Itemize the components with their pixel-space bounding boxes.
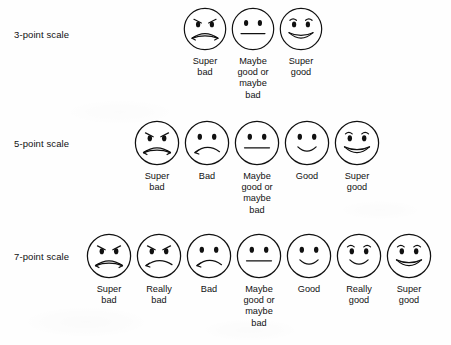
scale-point-neutral[interactable]: Maybe good or maybe bad xyxy=(234,232,284,329)
faces-strip: Super badMaybe good or maybe badSuper go… xyxy=(181,6,325,101)
face-really-good-icon xyxy=(335,232,383,280)
scale-point-caption: Super good xyxy=(345,171,370,193)
scale-point-neutral[interactable]: Maybe good or maybe bad xyxy=(232,119,282,216)
scale-point-caption: Maybe good or maybe bad xyxy=(243,284,274,329)
scale-point-super-good[interactable]: Super good xyxy=(384,232,434,329)
face-good-icon xyxy=(285,232,333,280)
face-bad-icon xyxy=(185,232,233,280)
face-neutral-icon xyxy=(233,119,281,167)
scale-point-bad[interactable]: Bad xyxy=(182,119,232,216)
scale-row-label: 3-point scale xyxy=(14,29,69,40)
scale-point-super-good[interactable]: Super good xyxy=(332,119,382,216)
face-super-good-icon xyxy=(333,119,381,167)
face-bad-icon xyxy=(183,119,231,167)
scale-point-super-bad[interactable]: Super bad xyxy=(132,119,182,216)
face-super-bad-icon xyxy=(133,119,181,167)
scale-point-caption: Good xyxy=(296,171,318,182)
scale-row-label: 5-point scale xyxy=(14,138,69,149)
face-really-bad-icon xyxy=(135,232,183,280)
face-good-icon xyxy=(283,119,331,167)
scale-point-caption: Good xyxy=(298,284,320,295)
scale-point-good[interactable]: Good xyxy=(282,119,332,216)
scale-point-caption: Super bad xyxy=(193,56,218,78)
face-super-good-icon xyxy=(385,232,433,280)
faces-strip: Super badBadMaybe good or maybe badGoodS… xyxy=(132,119,382,216)
scale-point-really-bad[interactable]: Really bad xyxy=(134,232,184,329)
face-neutral-icon xyxy=(230,6,276,52)
face-neutral-icon xyxy=(235,232,283,280)
scale-point-caption: Super bad xyxy=(97,284,122,306)
scale-point-super-good[interactable]: Super good xyxy=(277,6,325,101)
face-super-bad-icon xyxy=(182,6,228,52)
scale-point-caption: Really good xyxy=(346,284,372,306)
scale-point-caption: Maybe good or maybe bad xyxy=(241,171,272,216)
scale-point-super-bad[interactable]: Super bad xyxy=(84,232,134,329)
scale-point-bad[interactable]: Bad xyxy=(184,232,234,329)
scale-point-caption: Maybe good or maybe bad xyxy=(237,56,268,101)
scale-point-caption: Super bad xyxy=(145,171,170,193)
scale-point-caption: Bad xyxy=(201,284,217,295)
scale-point-good[interactable]: Good xyxy=(284,232,334,329)
scale-point-caption: Bad xyxy=(199,171,215,182)
figure-canvas: 3-point scaleSuper badMaybe good or mayb… xyxy=(0,0,451,345)
scale-point-caption: Super good xyxy=(397,284,422,306)
scale-point-caption: Super good xyxy=(289,56,314,78)
face-super-good-icon xyxy=(278,6,324,52)
face-super-bad-icon xyxy=(85,232,133,280)
scale-point-neutral[interactable]: Maybe good or maybe bad xyxy=(229,6,277,101)
faces-strip: Super badReally badBadMaybe good or mayb… xyxy=(84,232,434,329)
scale-row-label: 7-point scale xyxy=(14,251,69,262)
scale-point-super-bad[interactable]: Super bad xyxy=(181,6,229,101)
scale-point-caption: Really bad xyxy=(146,284,172,306)
scale-point-really-good[interactable]: Really good xyxy=(334,232,384,329)
